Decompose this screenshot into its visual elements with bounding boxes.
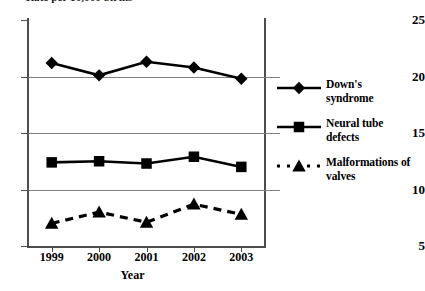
- data-point-marker: [235, 73, 247, 85]
- legend-label: Neural tubedefects: [326, 117, 425, 144]
- legend-label: Down'ssyndrome: [326, 78, 425, 105]
- data-point-marker: [188, 61, 200, 73]
- data-point-marker: [94, 156, 105, 167]
- legend-square-icon: [276, 120, 322, 134]
- legend-label-line1: Malformations of: [326, 156, 410, 168]
- data-point-marker: [141, 158, 152, 169]
- line-chart: Rate per 10,000 births 252015105 1999200…: [0, 0, 425, 291]
- series-square: [46, 151, 246, 172]
- data-point-marker: [93, 69, 105, 81]
- legend-label-line2: defects: [326, 131, 359, 143]
- data-point-marker: [189, 151, 200, 162]
- legend-item: Malformations ofvalves: [276, 156, 425, 186]
- series-triangle: [45, 198, 248, 229]
- data-point-marker: [140, 56, 152, 68]
- legend-triangle-icon: [276, 159, 322, 173]
- data-point-marker: [92, 206, 105, 218]
- legend-item: Down'ssyndrome: [276, 78, 425, 108]
- data-point-marker: [236, 162, 247, 173]
- data-point-marker: [46, 57, 58, 69]
- legend-label-line2: syndrome: [326, 92, 374, 104]
- series-diamond: [46, 56, 248, 85]
- legend-diamond-icon: [276, 81, 322, 95]
- legend-item: Neural tubedefects: [276, 117, 425, 147]
- chart-legend: Down'ssyndromeNeural tubedefectsMalforma…: [276, 78, 425, 195]
- data-point-marker: [235, 208, 248, 220]
- legend-label-line2: valves: [326, 170, 355, 182]
- legend-label-line1: Neural tube: [326, 117, 383, 129]
- data-point-marker: [187, 198, 200, 210]
- data-point-marker: [46, 157, 57, 168]
- legend-label-line1: Down's: [326, 78, 362, 90]
- legend-label: Malformations ofvalves: [326, 156, 425, 183]
